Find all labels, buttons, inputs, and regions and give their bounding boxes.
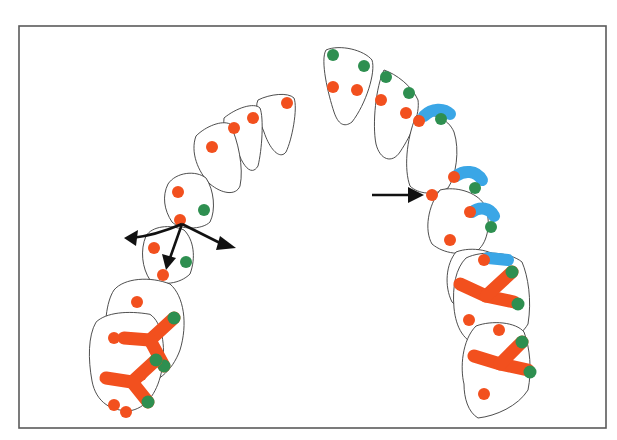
contact-point-green	[485, 221, 497, 233]
contact-point-green	[180, 256, 192, 268]
contact-point-green	[142, 396, 155, 409]
contact-point-red	[493, 324, 505, 336]
contact-point-green	[469, 182, 481, 194]
tooth-left-premolar-1	[165, 173, 214, 228]
contact-point-red	[478, 254, 490, 266]
contact-point-red	[448, 171, 460, 183]
contact-point-green	[198, 204, 210, 216]
contact-ridge-blue	[488, 258, 508, 260]
tooth-right-canine	[407, 115, 457, 193]
contact-point-green	[327, 49, 339, 61]
contact-point-red	[157, 269, 169, 281]
contact-point-red	[108, 399, 120, 411]
contact-point-red	[172, 186, 184, 198]
contact-point-green	[512, 298, 525, 311]
contact-point-red	[148, 242, 160, 254]
contact-point-red	[206, 141, 218, 153]
contact-point-green	[358, 60, 370, 72]
contact-point-red	[444, 234, 456, 246]
contact-point-green	[150, 354, 163, 367]
contact-point-green	[403, 87, 415, 99]
contact-point-red	[375, 94, 387, 106]
contact-point-green	[168, 312, 181, 325]
contact-point-red	[400, 107, 412, 119]
contact-point-red	[464, 206, 476, 218]
contact-point-red	[413, 115, 425, 127]
contact-point-green	[435, 113, 447, 125]
dental-arch-diagram	[0, 0, 617, 440]
contact-point-red	[228, 122, 240, 134]
contact-point-red	[351, 84, 363, 96]
contact-point-red	[463, 314, 475, 326]
contact-point-red	[120, 406, 132, 418]
contact-point-red	[327, 81, 339, 93]
contact-point-red	[478, 388, 490, 400]
contact-point-red	[108, 332, 120, 344]
contact-point-red	[281, 97, 293, 109]
contact-point-red	[131, 296, 143, 308]
contact-point-green	[380, 71, 392, 83]
contact-point-red	[426, 189, 438, 201]
contact-point-green	[516, 336, 529, 349]
contact-point-green	[506, 266, 519, 279]
contact-point-green	[524, 366, 537, 379]
contact-point-red	[247, 112, 259, 124]
